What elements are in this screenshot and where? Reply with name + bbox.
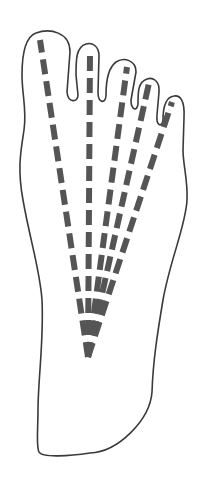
foot-diagram — [0, 0, 199, 480]
background — [0, 0, 199, 480]
